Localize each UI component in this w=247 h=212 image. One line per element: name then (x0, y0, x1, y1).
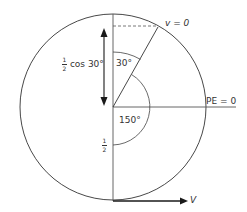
angle-150-text: 150° (119, 115, 141, 125)
angle-30-label: 30° (116, 59, 132, 68)
radius-fraction-den: 2 (103, 147, 107, 153)
radius-fraction-num: 1 (103, 138, 107, 144)
height-fraction: 1 2 (62, 57, 67, 72)
angle-arc-150 (113, 75, 150, 146)
angle-30-text: 30° (116, 58, 132, 68)
height-label: 1 2 cos 30° (62, 57, 104, 72)
radius-fraction: 1 2 (102, 138, 107, 153)
circle-diagram (0, 0, 247, 212)
height-fraction-num: 1 (63, 57, 67, 63)
velocity-arrowhead (180, 198, 188, 205)
arrowhead-up (101, 28, 108, 37)
v-zero-text: v = 0 (165, 18, 189, 28)
velocity-label: V (190, 196, 196, 205)
v-zero-label: v = 0 (165, 19, 189, 28)
radius-label: 1 2 (102, 138, 107, 153)
arrowhead-down (101, 97, 108, 106)
velocity-text: V (190, 195, 196, 205)
height-cos-text: cos 30° (70, 59, 104, 69)
height-fraction-den: 2 (63, 66, 67, 72)
pe-zero-label: PE = 0 (206, 97, 236, 106)
pe-zero-text: PE = 0 (206, 96, 236, 106)
angle-150-label: 150° (119, 116, 141, 125)
